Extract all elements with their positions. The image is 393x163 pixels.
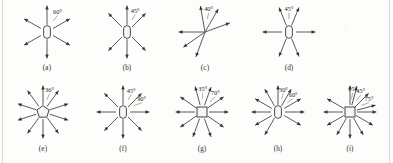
arrow-e-7 (18, 114, 36, 120)
arrow-i-9 (327, 116, 343, 125)
body-rounded-rectangle-vertical (120, 106, 127, 118)
angle-leader-f-1 (134, 103, 141, 106)
panel-h-caption: (h) (239, 145, 317, 153)
angle-label-i-2: 75° (365, 95, 374, 102)
arrow-i-6 (354, 118, 363, 134)
arrow-i-4 (358, 111, 377, 114)
arrow-b-2 (132, 37, 145, 50)
arrow-h-6 (255, 116, 271, 125)
arrow-h-3 (286, 111, 305, 114)
arrow-g-2 (208, 97, 223, 108)
arrow-e-1 (47, 91, 58, 106)
arrow-h-7 (252, 111, 271, 114)
arrow-i-5 (356, 116, 372, 125)
arrow-g-3 (210, 111, 229, 114)
arrow-i-10 (324, 111, 343, 114)
panel-f: 45°90° (f) (84, 82, 162, 162)
arrow-i-7 (349, 120, 352, 139)
arrow-g-7 (181, 116, 196, 127)
panel-i-caption: (i) (311, 145, 389, 153)
angle-leader-i-1 (357, 95, 361, 101)
angle-label-g-0: 35° (198, 85, 207, 92)
panel-d: 45° (d) (250, 2, 328, 80)
arrow-f-3 (128, 117, 141, 130)
angle-label-b-0: 45° (131, 7, 140, 14)
arrow-h-9 (265, 89, 274, 105)
body-rounded-rectangle-vertical (124, 26, 131, 38)
panel-a: 60° (a) (8, 2, 86, 80)
arrow-a-5 (24, 19, 40, 28)
angle-label-i-1: 45° (356, 87, 365, 94)
arrow-i-3 (357, 105, 375, 110)
arrow-e-4 (47, 118, 58, 133)
arrow-b-3 (126, 40, 129, 59)
angle-label-e-0: 36° (45, 86, 54, 93)
arrow-i-11 (327, 99, 343, 108)
angle-leader-i-2 (361, 103, 369, 106)
figure-root: 60° (a) 45° (b) 40° (c) 45° (d) 36° (e) … (0, 0, 393, 163)
arrow-g-9 (181, 97, 196, 108)
arrow-h-4 (284, 116, 300, 125)
arrow-f-4 (122, 120, 125, 139)
angle-label-h-1: 60° (289, 91, 298, 98)
panel-i: 15°45°75° (i) (311, 82, 389, 162)
arrow-f-7 (105, 94, 118, 107)
arrow-f-5 (105, 117, 118, 130)
page-edge-right (389, 0, 390, 163)
arrow-b-5 (109, 14, 122, 27)
arrow-g-5 (205, 119, 212, 136)
arrow-i-8 (337, 118, 346, 134)
arrow-d-2 (263, 31, 282, 34)
arrow-e-2 (50, 104, 68, 110)
arrow-e-6 (28, 118, 39, 133)
angle-leader-g-1 (210, 97, 215, 102)
angle-label-a-0: 60° (53, 8, 62, 15)
angle-label-f-0: 45° (127, 87, 136, 94)
arrow-h-5 (265, 118, 274, 134)
panel-d-caption: (d) (250, 64, 328, 72)
body-rounded-rectangle-vertical (286, 26, 293, 38)
page-edge-left (2, 0, 3, 163)
panel-a-caption: (a) (8, 64, 86, 72)
panel-c-caption: (c) (166, 64, 244, 72)
arrow-a-2 (53, 36, 69, 45)
panel-g-caption: (g) (163, 145, 241, 153)
angle-leader-e-0 (47, 94, 49, 100)
arrow-a-1 (53, 19, 69, 28)
arrow-b-0 (126, 6, 129, 25)
body-rounded-rectangle-vertical (275, 106, 282, 118)
arrow-b-4 (109, 37, 122, 50)
panel-f-caption: (f) (84, 145, 162, 153)
arrow-h-8 (255, 99, 271, 108)
angle-leader-f-0 (128, 94, 131, 100)
arrow-d-5 (292, 39, 299, 56)
arrow-g-8 (176, 111, 195, 114)
arrow-f-2 (131, 111, 150, 114)
arrow-c-3 (196, 33, 205, 56)
body-point (204, 31, 206, 33)
arrow-d-4 (279, 39, 286, 56)
panel-c: 40° (c) (166, 2, 244, 80)
arrow-a-4 (24, 36, 40, 45)
angle-label-g-1: 70° (211, 89, 220, 96)
arrow-f-0 (122, 86, 125, 105)
arrow-g-6 (193, 119, 200, 136)
angle-leader-a-0 (54, 15, 58, 20)
angle-leader-c-0 (207, 13, 208, 19)
panel-e-caption: (e) (4, 145, 82, 153)
panel-h: 30°60° (h) (239, 82, 317, 162)
arrow-e-8 (18, 104, 36, 110)
arrow-d-3 (297, 31, 316, 34)
panel-b-caption: (b) (88, 64, 166, 72)
arrow-f-6 (97, 111, 116, 114)
arrow-e-9 (28, 91, 39, 106)
angle-leader-b-0 (132, 14, 135, 20)
panel-g: 35°70° (g) (163, 82, 241, 162)
angle-label-c-0: 40° (204, 5, 213, 12)
arrow-a-3 (46, 40, 49, 59)
arrow-e-3 (50, 114, 68, 120)
body-square (197, 107, 207, 117)
angle-label-h-0: 30° (279, 86, 288, 93)
angle-leader-h-0 (281, 93, 283, 99)
body-pentagon (37, 106, 49, 118)
